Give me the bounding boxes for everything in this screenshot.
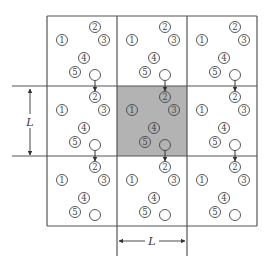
particle-number: 4 [151,193,156,203]
image-cell [117,16,187,86]
particle-number: 1 [59,175,64,185]
image-cell [47,16,117,86]
particle-number: 1 [129,105,134,115]
particle-number: 3 [171,35,176,45]
particle-number: 4 [81,53,86,63]
image-cell [47,86,117,156]
image-cell [117,156,187,226]
particle-number: 4 [221,123,226,133]
particle-number: 4 [221,193,226,203]
particle-number: 3 [241,105,246,115]
particle-number: 3 [241,175,246,185]
central-simulation-cell [117,86,187,156]
particle-number: 3 [241,35,246,45]
particle-number: 3 [101,35,106,45]
particle-number: 2 [232,22,237,32]
particle-number: 2 [232,162,237,172]
particle-number: 1 [199,105,204,115]
particle-number: 5 [72,137,77,147]
particle-number: 5 [212,67,217,77]
particle-number: 2 [92,162,97,172]
particle-number: 4 [221,53,226,63]
image-cell [187,16,257,86]
particle-number: 4 [151,123,156,133]
particle-number: 5 [212,137,217,147]
image-cell [47,156,117,226]
particle-number: 5 [142,137,147,147]
particle-number: 2 [162,92,167,102]
particle-number: 4 [151,53,156,63]
particle-number: 5 [72,207,77,217]
vertical-length-label: L [25,116,33,129]
particle-number: 5 [72,67,77,77]
particle-number: 2 [92,92,97,102]
particle-number: 4 [81,123,86,133]
particle-number: 3 [101,105,106,115]
image-cell [187,156,257,226]
particle-number: 1 [199,35,204,45]
particle-number: 2 [92,22,97,32]
image-cell [187,86,257,156]
particle-number: 5 [142,207,147,217]
particle-number: 1 [59,35,64,45]
particle-number: 1 [129,175,134,185]
horizontal-length-label: L [147,235,155,248]
particle-number: 5 [212,207,217,217]
particle-number: 1 [129,35,134,45]
particle-number: 4 [81,193,86,203]
particle-number: 3 [171,105,176,115]
particle-number: 2 [162,22,167,32]
particle-number: 2 [162,162,167,172]
particle-number: 3 [171,175,176,185]
particle-number: 1 [59,105,64,115]
particle-number: 1 [199,175,204,185]
particle-number: 3 [101,175,106,185]
particle-number: 5 [142,67,147,77]
periodic-boundary-diagram: 1234512345123451234512345123451234512345… [0,0,271,258]
particle-number: 2 [232,92,237,102]
